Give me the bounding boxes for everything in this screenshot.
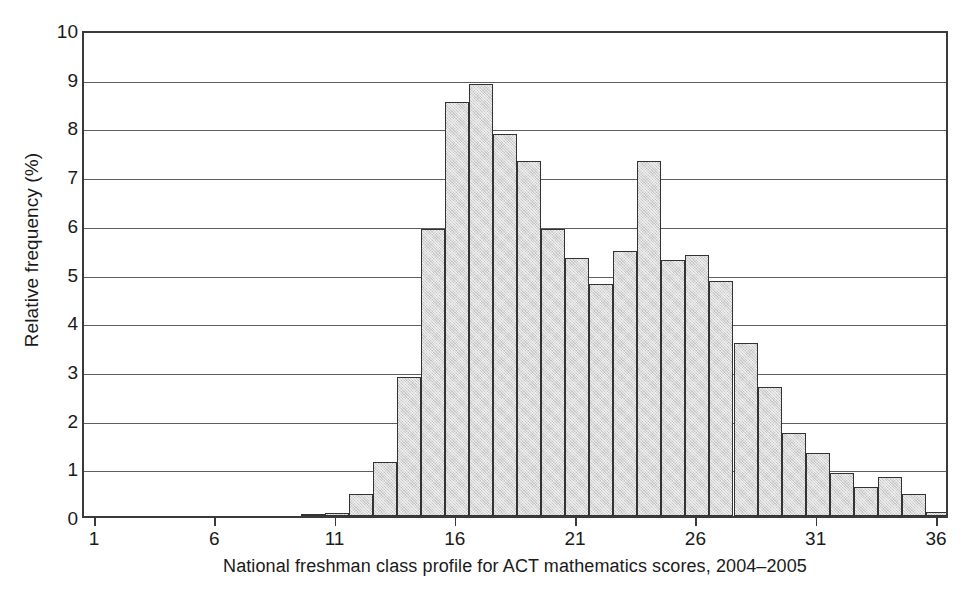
y-axis-tick-labels: 012345678910 — [36, 31, 78, 518]
histogram-bar — [301, 514, 325, 516]
x-tick-mark-1 — [94, 518, 96, 526]
x-tick-label-11: 11 — [305, 528, 365, 550]
x-tick-mark-36 — [936, 518, 938, 526]
histogram-bar — [325, 513, 349, 516]
y-tick-label-8: 8 — [44, 119, 78, 138]
histogram-bar — [613, 251, 637, 516]
histogram-bar — [421, 229, 445, 516]
y-tick-label-5: 5 — [44, 266, 78, 285]
histogram-bar — [709, 281, 733, 516]
x-tick-mark-11 — [335, 518, 337, 526]
histogram-bar — [854, 487, 878, 516]
histogram-bar — [493, 134, 517, 516]
histogram-bar — [541, 229, 565, 516]
y-tick-label-4: 4 — [44, 314, 78, 333]
histogram-bar — [349, 494, 373, 516]
histogram-bar — [637, 161, 661, 517]
y-tick-label-9: 9 — [44, 71, 78, 90]
histogram-bar — [734, 343, 758, 516]
histogram-bar — [661, 260, 685, 516]
x-tick-label-16: 16 — [425, 528, 485, 550]
x-tick-mark-16 — [455, 518, 457, 526]
y-tick-label-10: 10 — [44, 22, 78, 41]
gridline-y-8 — [84, 130, 946, 131]
histogram-bar — [397, 377, 421, 516]
x-tick-label-31: 31 — [786, 528, 846, 550]
histogram-bar — [589, 284, 613, 516]
histogram-bar — [782, 433, 806, 516]
histogram-bar — [685, 255, 709, 516]
histogram-bar — [830, 473, 854, 516]
x-tick-mark-6 — [214, 518, 216, 526]
y-tick-label-3: 3 — [44, 363, 78, 382]
x-tick-label-36: 36 — [906, 528, 966, 550]
plot-inner — [84, 33, 946, 516]
x-tick-mark-21 — [575, 518, 577, 526]
y-tick-label-1: 1 — [44, 460, 78, 479]
histogram-figure: Relative frequency (%) 012345678910 1611… — [0, 0, 978, 594]
gridline-y-9 — [84, 82, 946, 83]
y-tick-label-7: 7 — [44, 168, 78, 187]
x-tick-label-26: 26 — [665, 528, 725, 550]
x-tick-label-1: 1 — [64, 528, 124, 550]
x-tick-label-21: 21 — [545, 528, 605, 550]
y-tick-label-6: 6 — [44, 217, 78, 236]
histogram-bar — [806, 453, 830, 516]
x-tick-mark-26 — [695, 518, 697, 526]
histogram-bar — [373, 462, 397, 516]
histogram-bar — [902, 494, 926, 516]
histogram-bar — [926, 512, 946, 516]
histogram-bar — [445, 102, 469, 516]
plot-area — [82, 31, 948, 518]
histogram-bar — [517, 161, 541, 517]
x-tick-mark-31 — [816, 518, 818, 526]
x-axis-tick-labels: 16111621263136 — [82, 518, 948, 528]
y-tick-label-0: 0 — [44, 509, 78, 528]
histogram-bar — [878, 477, 902, 516]
x-tick-label-6: 6 — [184, 528, 244, 550]
y-tick-label-2: 2 — [44, 412, 78, 431]
histogram-bar — [469, 84, 493, 516]
histogram-bar — [758, 387, 782, 516]
histogram-bar — [565, 258, 589, 516]
x-axis-caption: National freshman class profile for ACT … — [82, 556, 948, 577]
